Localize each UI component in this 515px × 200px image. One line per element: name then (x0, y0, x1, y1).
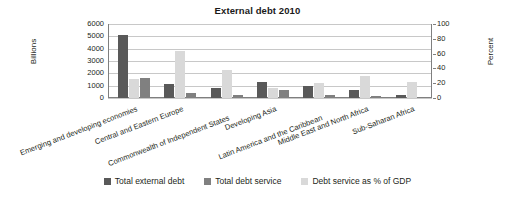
y-axis-title-left: Billions (29, 17, 38, 87)
y-tick-label-right: 40 (437, 64, 445, 72)
chart-legend: Total external debtTotal debt serviceDeb… (0, 176, 515, 186)
y-axis-ticks-left: 0100020003000400050006000 (72, 24, 104, 98)
legend-swatch-icon (204, 178, 211, 185)
bar-group (293, 24, 339, 98)
bar-group (386, 24, 432, 98)
bar-1-3 (279, 90, 289, 98)
chart-title: External debt 2010 (0, 5, 515, 16)
y-tick-label-right: 60 (437, 50, 445, 58)
legend-label: Debt service as % of GDP (312, 176, 411, 186)
bar-0-3 (257, 82, 267, 98)
bar-2-5 (360, 76, 370, 98)
y-tick-label-left: 6000 (87, 20, 104, 28)
y-tick-label-left: 3000 (87, 57, 104, 65)
bar-2-3 (268, 88, 278, 98)
bar-group (154, 24, 200, 98)
bar-group (201, 24, 247, 98)
y-tick-mark-right (433, 39, 436, 40)
bar-2-1 (175, 51, 185, 98)
legend-item[interactable]: Debt service as % of GDP (301, 176, 411, 186)
bar-2-4 (314, 83, 324, 98)
bar-group (339, 24, 385, 98)
y-tick-mark-right (433, 24, 436, 25)
legend-swatch-icon (301, 178, 308, 185)
bar-2-0 (129, 79, 139, 98)
legend-label: Total debt service (215, 176, 281, 186)
bar-0-2 (211, 88, 221, 98)
bar-groups (108, 24, 432, 98)
bar-2-6 (407, 82, 417, 98)
y-axis-ticks-right: 020406080100 (437, 24, 463, 98)
y-tick-label-left: 4000 (87, 45, 104, 53)
y-tick-label-left: 5000 (87, 32, 104, 40)
bar-2-2 (222, 70, 232, 98)
y-tick-label-right: 80 (437, 35, 445, 43)
legend-item[interactable]: Total debt service (204, 176, 281, 186)
y-tick-mark-right (433, 83, 436, 84)
plot-area (108, 24, 432, 98)
external-debt-chart: External debt 2010 Billions Percent 0100… (0, 0, 515, 200)
bar-1-0 (140, 78, 150, 98)
y-tick-label-left: 2000 (87, 69, 104, 77)
bar-0-4 (303, 86, 313, 98)
y-tick-mark-right (433, 68, 436, 69)
bar-0-5 (349, 90, 359, 98)
bar-group (108, 24, 154, 98)
legend-item[interactable]: Total external debt (104, 176, 184, 186)
y-axis-title-right: Percent (486, 17, 495, 87)
y-tick-label-right: 20 (437, 79, 445, 87)
bar-0-0 (118, 35, 128, 98)
x-axis-category-labels: Emerging and developing economiesCentral… (0, 98, 515, 158)
y-tick-mark-right (433, 54, 436, 55)
y-tick-label-left: 1000 (87, 82, 104, 90)
bar-group (247, 24, 293, 98)
legend-label: Total external debt (115, 176, 184, 186)
legend-swatch-icon (104, 178, 111, 185)
y-tick-label-right: 100 (437, 20, 450, 28)
bar-0-1 (164, 84, 174, 98)
